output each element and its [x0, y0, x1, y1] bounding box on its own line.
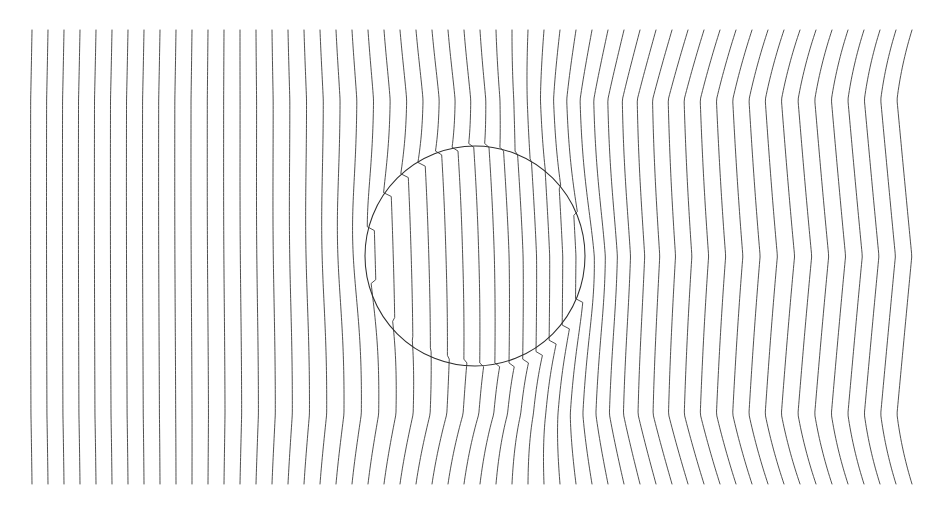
figure-background [0, 0, 939, 509]
field-line-canvas [0, 0, 939, 509]
field-line-figure [0, 0, 939, 509]
